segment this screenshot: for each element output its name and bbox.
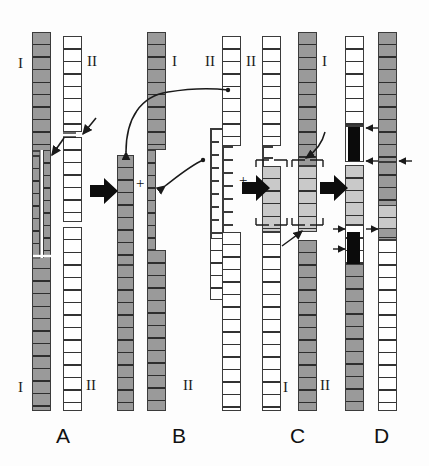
panel-b-plus-left: + — [136, 175, 144, 192]
panel-c-label-II-bottom: II — [320, 378, 330, 393]
panel-a-label-I-top: I — [18, 56, 23, 71]
banding — [64, 37, 81, 131]
panel-d-chromosome-II-upper — [345, 36, 364, 126]
panel-d-inserted-block-2 — [347, 232, 360, 264]
panel-b-label-I-top: I — [172, 54, 177, 69]
panel-a-chromosome-I-split-left — [32, 156, 40, 256]
banding — [379, 206, 396, 228]
banding — [379, 241, 396, 410]
panel-a-label-I-bottom: I — [18, 380, 23, 395]
panel-c-translocated-segment-on-II — [262, 166, 281, 232]
panel-c-chromosome-I-lower — [298, 240, 317, 411]
banding — [263, 37, 280, 145]
panel-b-chromosome-I-lower — [147, 250, 166, 411]
panel-a-label-II-bottom: II — [86, 378, 96, 393]
rail-tick — [210, 193, 219, 195]
panel-a-chromosome-II-mid — [63, 137, 82, 222]
rail-tick — [210, 141, 219, 143]
banding — [346, 166, 363, 224]
step-arrow-C-to-D — [320, 175, 348, 201]
rail-tick — [222, 185, 233, 187]
banding — [148, 33, 165, 149]
banding — [148, 251, 165, 410]
panel-c-rail — [262, 146, 264, 166]
banding — [33, 257, 50, 410]
rail-tick — [210, 154, 219, 156]
panel-a-chromosome-I-upper — [32, 32, 51, 156]
panel-c-chromosome-II-lower — [262, 232, 281, 411]
banding — [263, 233, 280, 410]
panel-d-chromosome-II-lower — [345, 264, 364, 411]
panel-a-chromosome-II-lower — [63, 227, 82, 411]
rail-tick — [222, 224, 233, 226]
figure-canvas: I II I II I II II + — [0, 0, 429, 466]
panel-b-label-II-top: II — [205, 54, 215, 69]
banding — [33, 157, 39, 255]
panel-c-chromosome-II-upper — [262, 36, 281, 146]
banding — [44, 151, 50, 255]
banding — [299, 33, 316, 165]
rail-tick — [222, 198, 233, 200]
banding — [346, 265, 363, 410]
panel-c-label-I-top: I — [322, 54, 327, 69]
panel-caption-C: C — [290, 424, 305, 448]
panel-a-label-II-top: II — [87, 54, 97, 69]
panel-b-chromosome-I-narrow — [147, 150, 156, 250]
panel-d-chromosome-I-light-band — [378, 205, 397, 229]
panel-d-chromosome-I-lower — [378, 240, 397, 411]
panel-caption-B: B — [172, 424, 186, 448]
panel-b-exchange-arrow-II-to-I — [165, 158, 205, 186]
panel-c-label-I-bottom: I — [283, 380, 288, 395]
banding — [346, 37, 363, 125]
panel-d-insert-frame-1 — [345, 126, 364, 162]
banding — [118, 156, 133, 264]
panel-c-label-II-top: II — [246, 54, 256, 69]
banding — [299, 241, 316, 410]
banding — [148, 151, 155, 249]
banding — [64, 228, 81, 410]
banding — [223, 37, 240, 145]
panel-b-label-II-bottom: II — [183, 378, 193, 393]
panel-c-translocated-segment-on-I — [298, 166, 317, 232]
banding — [223, 233, 240, 410]
panel-a-chromosome-II-upper — [63, 36, 82, 132]
panel-d-chromosome-I-upper — [378, 32, 397, 162]
banding — [263, 167, 280, 231]
panel-d-chromosome-II-segment — [345, 165, 364, 225]
rail-tick — [210, 167, 219, 169]
rail-tick — [222, 172, 233, 174]
panel-a-chromosome-I-split-right — [43, 150, 51, 256]
panel-b-chromosome-I-upper — [147, 32, 166, 150]
panel-b-plus-right: + — [239, 172, 247, 189]
rail-tick — [222, 211, 233, 213]
rail-tick — [210, 219, 219, 221]
banding — [33, 33, 50, 155]
rail-tick — [262, 146, 273, 148]
panel-caption-D: D — [374, 424, 389, 448]
panel-b-fragment-I-distal — [117, 155, 134, 265]
panel-b-chromosome-II-lower — [222, 232, 241, 411]
panel-caption-A: A — [56, 424, 70, 448]
panel-b-fragment-I-distal-tail — [117, 265, 134, 411]
rail-tick — [262, 157, 273, 159]
rail-tick — [210, 206, 219, 208]
banding — [299, 167, 316, 231]
panel-a-chromosome-I-lower — [32, 256, 51, 411]
rail-tick — [222, 159, 233, 161]
banding — [64, 138, 81, 221]
rail-tick — [222, 146, 233, 148]
panel-b-chromosome-II-upper — [222, 36, 241, 146]
step-arrow-A-to-B — [90, 178, 118, 204]
banding — [379, 33, 396, 161]
panel-b-fragment-II-rail — [210, 128, 212, 238]
rail-tick — [210, 180, 219, 182]
banding — [118, 266, 133, 410]
panel-c-chromosome-I-upper — [298, 32, 317, 166]
